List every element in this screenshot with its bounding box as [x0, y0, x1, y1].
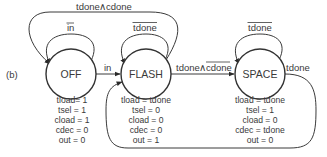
svg-text:cdone: cdone: [106, 1, 132, 12]
figure-label: (b): [6, 69, 18, 80]
label-space-to-flash: tdone: [286, 62, 310, 73]
svg-text:out = 1: out = 1: [133, 135, 160, 145]
label-space-self: tdone: [248, 22, 272, 33]
state-flash: FLASH: [121, 49, 171, 99]
svg-text:cdec = tdone: cdec = tdone: [235, 125, 285, 135]
transition-label-flash-to-off: tdone ∧ cdone: [76, 1, 132, 12]
transition-label-flash-to-space: tdone ∧ cdone: [176, 62, 232, 73]
svg-text:tsel = 0: tsel = 0: [132, 105, 160, 115]
label-off-to-flash: in: [104, 62, 111, 73]
label-off-self: in: [67, 22, 74, 33]
svg-text:cdec = 0: cdec = 0: [130, 125, 163, 135]
svg-text:cload = 1: cload = 1: [54, 115, 89, 125]
svg-text:∧: ∧: [199, 62, 206, 73]
outputs-off: tload= 1 tsel = 1 cload = 1 cdec = 0 out…: [54, 95, 89, 145]
svg-text:out = 0: out = 0: [59, 135, 86, 145]
svg-text:tsel = 1: tsel = 1: [246, 105, 274, 115]
state-off: OFF: [46, 49, 96, 99]
svg-text:cload = 0: cload = 0: [128, 115, 163, 125]
svg-text:tdone: tdone: [176, 62, 200, 73]
svg-text:tdone: tdone: [76, 1, 100, 12]
outputs-flash: tload = tdone tsel = 0 cload = 0 cdec = …: [121, 95, 171, 145]
svg-text:cload = 0: cload = 0: [242, 115, 277, 125]
state-diagram: (b) tdone ∧ cdone in tdone tdone in tdon…: [0, 0, 327, 157]
state-space: SPACE: [235, 49, 285, 99]
label-flash-self: tdone: [133, 22, 157, 33]
svg-text:∧: ∧: [99, 1, 106, 12]
state-space-label: SPACE: [243, 68, 278, 80]
svg-text:tload = tdone: tload = tdone: [121, 95, 171, 105]
svg-text:tload = tdone: tload = tdone: [235, 95, 285, 105]
state-off-label: OFF: [61, 68, 82, 80]
svg-text:tload= 1: tload= 1: [57, 95, 88, 105]
svg-text:tsel = 1: tsel = 1: [58, 105, 86, 115]
outputs-space: tload = tdone tsel = 1 cload = 0 cdec = …: [235, 95, 285, 145]
svg-text:cdec = 0: cdec = 0: [56, 125, 89, 135]
svg-text:cdone: cdone: [206, 62, 232, 73]
svg-text:out = 0: out = 0: [247, 135, 274, 145]
state-flash-label: FLASH: [129, 68, 163, 80]
